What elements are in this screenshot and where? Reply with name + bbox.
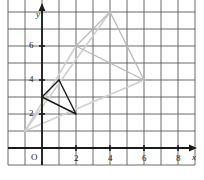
y-tick-label-4: 4 bbox=[29, 75, 34, 84]
y-tick-label-6: 6 bbox=[29, 41, 34, 50]
coordinate-grid-figure: 6 4 2 2 4 6 8 O x y bbox=[0, 0, 204, 180]
x-tick-label-2: 2 bbox=[74, 154, 79, 163]
x-axis-arrowhead bbox=[189, 145, 197, 152]
y-axis-label: y bbox=[36, 10, 40, 19]
x-tick-label-4: 4 bbox=[108, 154, 113, 163]
axes-lines bbox=[8, 3, 197, 165]
x-tick-label-8: 8 bbox=[176, 154, 181, 163]
x-axis-label: x bbox=[192, 153, 196, 162]
y-tick-label-2: 2 bbox=[29, 109, 34, 118]
x-tick-label-6: 6 bbox=[142, 154, 147, 163]
origin-label: O bbox=[31, 153, 38, 162]
